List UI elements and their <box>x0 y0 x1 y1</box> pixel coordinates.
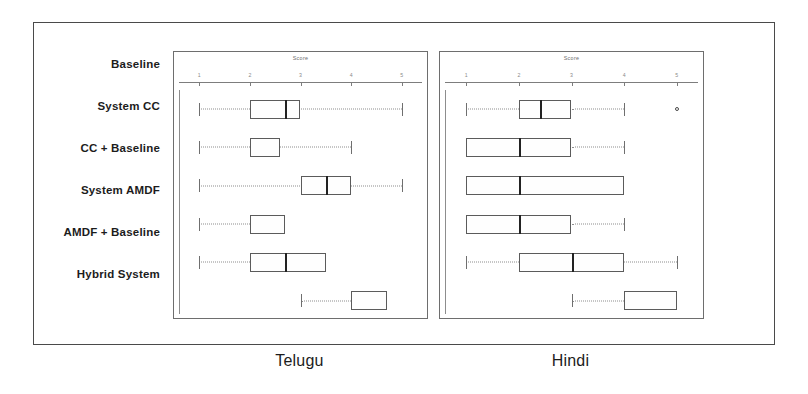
boxplot-row <box>440 128 703 166</box>
box <box>250 100 301 119</box>
boxplot-row <box>174 167 427 205</box>
whisker-cap-low <box>466 103 467 116</box>
box <box>466 176 624 195</box>
axis-strip-hindi: 12345 <box>440 64 703 86</box>
panel-caption-telugu: Telugu <box>172 352 427 370</box>
axis-tick-label-telugu-3: 3 <box>299 72 302 78</box>
whisker-high <box>351 185 402 186</box>
median-line <box>285 253 287 272</box>
whisker-cap-low <box>199 103 200 116</box>
whisker-cap-high <box>624 141 625 154</box>
axis-tick-label-hindi-3: 3 <box>570 72 573 78</box>
box <box>519 100 572 119</box>
boxplot-panel-hindi: Score 12345 <box>439 51 704 319</box>
box <box>250 253 326 272</box>
whisker-cap-high <box>677 256 678 269</box>
box <box>351 291 386 310</box>
row-label-cc-baseline: CC + Baseline <box>80 141 160 155</box>
boxplot-panel-telugu: Score 12345 <box>173 51 428 319</box>
median-line <box>519 215 521 234</box>
whisker-high <box>572 224 625 225</box>
whisker-low <box>199 109 250 110</box>
plot-area-telugu <box>174 90 427 314</box>
row-label-baseline: Baseline <box>111 57 160 71</box>
row-label-amdf-baseline: AMDF + Baseline <box>63 225 160 239</box>
row-label-hybrid-system: Hybrid System <box>77 267 160 281</box>
whisker-low <box>572 300 625 301</box>
axis-tick-label-hindi-4: 4 <box>623 72 626 78</box>
whisker-cap-low <box>199 256 200 269</box>
box <box>250 215 285 234</box>
boxplot-row <box>440 167 703 205</box>
figure-frame: BaselineSystem CCCC + BaselineSystem AMD… <box>33 22 775 345</box>
median-line <box>519 138 521 157</box>
axis-tick-label-hindi-5: 5 <box>675 72 678 78</box>
axis-tick-label-hindi-1: 1 <box>465 72 468 78</box>
boxplot-row <box>174 205 427 243</box>
whisker-high <box>572 109 625 110</box>
whisker-cap-low <box>466 256 467 269</box>
whisker-low <box>199 147 250 148</box>
boxplot-row <box>174 128 427 166</box>
median-line <box>519 176 521 195</box>
whisker-low <box>199 262 250 263</box>
whisker-cap-high <box>624 103 625 116</box>
axis-tick-label-telugu-1: 1 <box>198 72 201 78</box>
row-label-system-cc: System CC <box>97 99 160 113</box>
median-line <box>326 176 328 195</box>
whisker-cap-high <box>402 103 403 116</box>
axis-tick-label-hindi-2: 2 <box>517 72 520 78</box>
whisker-cap-low <box>199 218 200 231</box>
whisker-cap-low <box>301 294 302 307</box>
whisker-cap-high <box>402 179 403 192</box>
median-line <box>572 253 574 272</box>
whisker-low <box>466 262 519 263</box>
axis-tick-hindi-2 <box>519 82 520 86</box>
axis-tick-hindi-4 <box>624 82 625 86</box>
median-line <box>540 100 542 119</box>
plot-area-hindi <box>440 90 703 314</box>
whisker-cap-high <box>624 218 625 231</box>
row-label-column: BaselineSystem CCCC + BaselineSystem AMD… <box>34 51 166 315</box>
box <box>624 291 677 310</box>
axis-tick-hindi-5 <box>677 82 678 86</box>
boxplot-row <box>174 90 427 128</box>
whisker-low <box>301 300 352 301</box>
axis-tick-label-telugu-5: 5 <box>400 72 403 78</box>
axis-tick-telugu-3 <box>301 82 302 86</box>
boxplot-row <box>440 243 703 281</box>
whisker-low <box>199 185 300 186</box>
boxplot-row <box>174 282 427 320</box>
whisker-cap-low <box>199 141 200 154</box>
axis-tick-hindi-1 <box>466 82 467 86</box>
axis-tick-hindi-3 <box>572 82 573 86</box>
whisker-cap-low <box>199 179 200 192</box>
boxplot-row <box>440 205 703 243</box>
axis-title-hindi: Score <box>440 55 703 61</box>
row-label-system-amdf: System AMDF <box>81 183 160 197</box>
box <box>250 138 280 157</box>
whisker-high <box>624 262 677 263</box>
axis-tick-telugu-4 <box>351 82 352 86</box>
outlier-point <box>675 107 679 111</box>
axis-tick-telugu-5 <box>402 82 403 86</box>
axis-tick-label-telugu-4: 4 <box>350 72 353 78</box>
axis-tick-telugu-1 <box>199 82 200 86</box>
axis-strip-telugu: 12345 <box>174 64 427 86</box>
whisker-low <box>199 224 250 225</box>
panel-caption-hindi: Hindi <box>438 352 703 370</box>
boxplot-row <box>174 243 427 281</box>
axis-tick-label-telugu-2: 2 <box>248 72 251 78</box>
whisker-low <box>466 109 519 110</box>
axis-title-telugu: Score <box>174 55 427 61</box>
whisker-high <box>280 147 351 148</box>
whisker-cap-low <box>572 294 573 307</box>
whisker-high <box>572 147 625 148</box>
axis-tick-telugu-2 <box>250 82 251 86</box>
boxplot-row <box>440 282 703 320</box>
boxplot-row <box>440 90 703 128</box>
median-line <box>285 100 287 119</box>
whisker-cap-high <box>351 141 352 154</box>
whisker-high <box>301 109 402 110</box>
